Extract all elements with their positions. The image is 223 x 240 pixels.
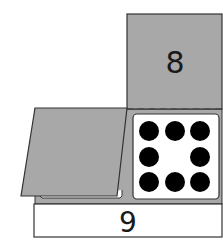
dot — [139, 121, 159, 141]
dot — [190, 121, 210, 141]
side-flap — [21, 108, 127, 196]
dot — [165, 121, 185, 141]
fold-diagram: 8 9 — [0, 0, 223, 240]
bottom-strip-label: 9 — [119, 206, 137, 239]
dot — [139, 147, 159, 167]
dot — [190, 147, 210, 167]
top-flap-label: 8 — [165, 45, 184, 80]
dot — [165, 172, 185, 192]
dot — [190, 172, 210, 192]
dot — [139, 172, 159, 192]
